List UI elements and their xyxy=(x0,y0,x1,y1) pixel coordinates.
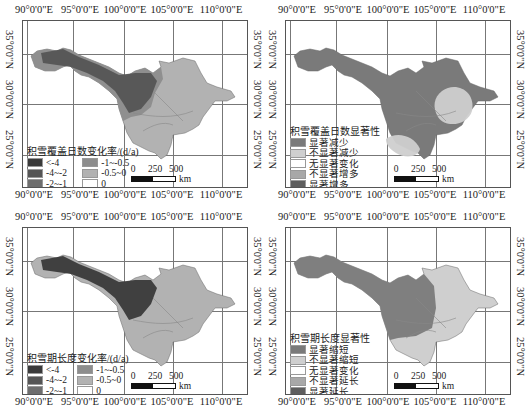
legend-label: 0 xyxy=(96,386,101,396)
map-panel-c: 90°0'0"E 95°0'0"E 100°0'0"E 105°0'0"E 11… xyxy=(0,207,263,414)
legend-swatch xyxy=(77,386,93,395)
legend-swatch xyxy=(27,158,43,167)
lon-label-top: 100°0'0"E xyxy=(366,4,409,15)
lat-label-right: 25°0'0"N xyxy=(515,337,526,376)
map-panel-b: 90°0'0"E 95°0'0"E 100°0'0"E 105°0'0"E 11… xyxy=(263,0,526,207)
map-legend: 积雪覆盖日数显著性 显著减少不显著减少无显著变化不显著增多显著增多 xyxy=(290,127,380,188)
legend-label: 不显著减少 xyxy=(309,148,359,159)
lon-label-bottom: 100°0'0"E xyxy=(366,396,409,407)
lon-label-top: 95°0'0"E xyxy=(61,4,99,15)
lat-label-right: 35°0'0"N xyxy=(252,237,263,276)
legend-swatch xyxy=(290,180,306,188)
legend-swatch xyxy=(290,356,306,365)
lat-label-left: 35°0'0"N xyxy=(4,237,15,276)
legend-item: 不显著增多 xyxy=(290,169,380,180)
lat-label-left: 35°0'0"N xyxy=(4,30,15,69)
scale-unit: km xyxy=(442,174,454,184)
legend-item: 0 xyxy=(77,386,128,396)
legend-swatch xyxy=(77,365,93,374)
lon-label-bottom: 110°0'0"E xyxy=(463,396,506,407)
scale-tick: 0 xyxy=(131,371,136,381)
lon-label-bottom: 105°0'0"E xyxy=(413,396,456,407)
scale-tick: 250 xyxy=(148,371,162,381)
lon-label-top: 105°0'0"E xyxy=(150,4,193,15)
lon-label-bottom: 95°0'0"E xyxy=(324,189,362,200)
lat-label-left: 35°0'0"N xyxy=(267,30,278,69)
lon-label-top: 105°0'0"E xyxy=(413,4,456,15)
scale-bar: 0 250 500 km xyxy=(394,164,484,184)
legend-item: -4~-2 xyxy=(27,168,76,179)
lon-label-bottom: 100°0'0"E xyxy=(366,189,409,200)
lon-label-top: 90°0'0"E xyxy=(15,4,53,15)
scale-tick: 500 xyxy=(432,371,446,381)
legend-label: 显著增多 xyxy=(309,180,349,189)
legend-label: 0 xyxy=(101,179,106,189)
legend-item: 显著延长 xyxy=(290,387,370,396)
legend-item: 不显著缩短 xyxy=(290,355,370,366)
legend-label: <-4 xyxy=(46,158,59,169)
legend-label: -1~-0.5 xyxy=(96,365,124,376)
lat-label-right: 35°0'0"N xyxy=(515,30,526,69)
lat-label-right: 25°0'0"N xyxy=(515,130,526,169)
map-legend: 积雪覆盖日数变化率/(d/a) <-4-1~-0.5-4~-2-0.5~0-2~… xyxy=(27,147,139,188)
lon-label-top: 105°0'0"E xyxy=(150,211,193,222)
scale-tick: 0 xyxy=(394,164,399,174)
map-frame: 积雪覆盖日数显著性 显著减少不显著减少无显著变化不显著增多显著增多 0 250 … xyxy=(285,20,511,188)
legend-label: -1~-0.5 xyxy=(101,158,129,169)
map-panel-a: 90°0'0"E 95°0'0"E 100°0'0"E 105°0'0"E 11… xyxy=(0,0,263,207)
legend-item: -0.5~0 xyxy=(77,375,128,386)
legend-label: -0.5~0 xyxy=(101,168,126,179)
legend-swatch xyxy=(27,365,43,374)
lon-label-bottom: 95°0'0"E xyxy=(61,189,99,200)
legend-swatch xyxy=(82,179,98,188)
legend-swatch xyxy=(290,387,306,395)
legend-label: -4~-2 xyxy=(46,168,67,179)
legend-label: 显著减少 xyxy=(309,138,349,149)
scale-tick: 0 xyxy=(131,164,136,174)
legend-title: 积雪覆盖日数显著性 xyxy=(290,127,380,138)
lon-label-bottom: 110°0'0"E xyxy=(463,189,506,200)
legend-swatch xyxy=(290,345,306,354)
legend-swatch xyxy=(27,386,43,395)
lon-label-top: 90°0'0"E xyxy=(278,211,316,222)
lon-label-bottom: 105°0'0"E xyxy=(150,396,193,407)
lat-label-left: 25°0'0"N xyxy=(267,337,278,376)
legend-title: 积雪期长度变化率/(d/a) xyxy=(27,354,129,365)
lon-label-top: 100°0'0"E xyxy=(103,4,146,15)
scale-tick: 250 xyxy=(411,164,425,174)
lat-label-left: 30°0'0"N xyxy=(267,287,278,326)
legend-swatch xyxy=(290,170,306,179)
scale-bar: 0 250 500 km xyxy=(131,371,221,391)
scale-unit: km xyxy=(179,381,191,391)
lat-label-right: 25°0'0"N xyxy=(252,130,263,169)
lon-label-bottom: 90°0'0"E xyxy=(15,189,53,200)
legend-swatch xyxy=(290,138,306,147)
legend-label: -2~-1 xyxy=(46,386,67,396)
lat-label-right: 35°0'0"N xyxy=(515,237,526,276)
lon-label-top: 110°0'0"E xyxy=(200,4,243,15)
legend-swatch xyxy=(290,377,306,386)
lon-label-top: 100°0'0"E xyxy=(103,211,146,222)
scale-unit: km xyxy=(179,174,191,184)
lon-label-bottom: 110°0'0"E xyxy=(200,396,243,407)
lon-label-top: 110°0'0"E xyxy=(463,4,506,15)
legend-item: -2~-1 xyxy=(27,179,76,189)
lon-label-bottom: 105°0'0"E xyxy=(150,189,193,200)
map-legend: 积雪期长度变化率/(d/a) <-4-1~-0.5-4~-2-0.5~0-2~-… xyxy=(27,354,129,395)
scale-tick: 500 xyxy=(169,371,183,381)
lat-label-left: 25°0'0"N xyxy=(4,130,15,169)
lon-label-top: 95°0'0"E xyxy=(324,4,362,15)
lat-label-left: 25°0'0"N xyxy=(4,337,15,376)
legend-swatch xyxy=(77,376,93,385)
map-frame: 积雪期长度显著性 显著缩短不显著缩短无显著变化不显著延长显著延长 0 250 5… xyxy=(285,227,511,395)
legend-swatch xyxy=(290,159,306,168)
legend-item: -1~-0.5 xyxy=(77,365,128,376)
legend-label: 无显著变化 xyxy=(309,159,359,170)
lon-label-top: 90°0'0"E xyxy=(278,4,316,15)
lat-label-right: 30°0'0"N xyxy=(515,287,526,326)
lat-label-left: 25°0'0"N xyxy=(267,130,278,169)
legend-swatch xyxy=(82,158,98,167)
lon-label-bottom: 95°0'0"E xyxy=(61,396,99,407)
scale-tick: 250 xyxy=(148,164,162,174)
legend-item: -2~-1 xyxy=(27,386,71,396)
